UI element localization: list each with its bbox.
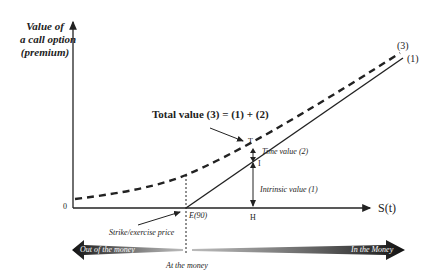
strike-pointer (138, 212, 180, 225)
total-value-label: Total value (3) = (1) + (2) (152, 108, 269, 120)
y-label-line1: Value of (20, 20, 70, 33)
time-value-label: Time value (2) (262, 147, 308, 156)
line1-label: (1) (407, 53, 419, 64)
out-of-money-label: Out of the money (80, 245, 135, 254)
total-value-pointer (210, 128, 243, 141)
t-label: T (248, 137, 253, 146)
y-label-line3: (premium) (20, 46, 70, 59)
strike-label: E(90) (189, 211, 207, 220)
total-value-curve (75, 53, 400, 199)
at-the-money-label: At the money (166, 261, 208, 270)
origin-label: 0 (63, 202, 67, 211)
y-axis-label: Value of a call option (premium) (20, 20, 70, 59)
y-label-line2: a call option (20, 33, 70, 46)
h-label: H (250, 213, 256, 222)
curve3-label: (3) (397, 40, 409, 51)
x-axis-label: S(t) (378, 201, 396, 216)
in-the-money-label: In the Money (351, 245, 393, 254)
i-label: I (258, 159, 261, 168)
intrinsic-value-label: Intrinsic value (1) (260, 185, 318, 194)
strike-caption: Strike/exercise price (109, 228, 174, 237)
